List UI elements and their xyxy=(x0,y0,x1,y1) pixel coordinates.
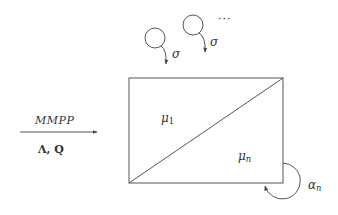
source-2 xyxy=(183,15,205,52)
lower-service-rate-base: μ xyxy=(238,149,246,163)
diagram-canvas xyxy=(0,0,338,215)
lower-service-rate-label: μn xyxy=(238,150,251,163)
more-sources-ellipsis: ··· xyxy=(218,14,232,25)
server-box-diagonal xyxy=(129,78,283,183)
source-1-circle xyxy=(145,28,165,48)
self-loop-label-sub: n xyxy=(316,183,321,193)
source-1 xyxy=(145,28,166,64)
lower-service-rate-sub: n xyxy=(246,154,251,164)
source-1-arrow xyxy=(161,46,166,64)
source-2-circle xyxy=(183,15,203,35)
input-parameters-label: Λ, Q xyxy=(38,144,64,155)
source-2-rate-label: σ xyxy=(210,36,218,48)
source-2-arrow xyxy=(199,33,205,52)
self-loop-label-base: α xyxy=(308,178,316,192)
source-1-rate-label: σ xyxy=(172,48,180,60)
upper-service-rate-label: μ1 xyxy=(161,112,174,125)
upper-service-rate-base: μ xyxy=(161,111,169,125)
input-process-label: MMPP xyxy=(35,115,74,126)
self-loop-label: αn xyxy=(308,179,322,192)
upper-service-rate-sub: 1 xyxy=(169,116,174,126)
